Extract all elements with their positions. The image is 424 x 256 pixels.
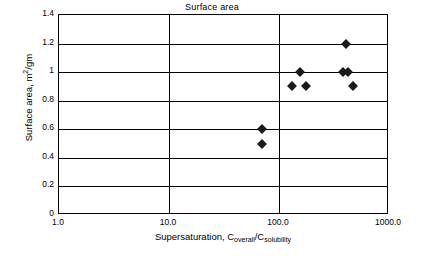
data-point [348,81,358,91]
x-axis-title: Supersaturation, Coverall/Csolubility [58,231,388,243]
data-point [287,81,297,91]
x-tick-3: 1000.0 [368,217,408,227]
x-axis-title-mid: /C [255,231,265,242]
plot-area [58,14,388,214]
data-point [341,39,351,49]
data-point [257,124,267,134]
x-tick-2: 100.0 [258,217,298,227]
x-tick-1: 10.0 [148,217,188,227]
y-axis-title-superscript: 2 [22,70,29,74]
x-axis-title-lead: Supersaturation, C [155,231,234,242]
x-axis-tick-labels: 1.0 10.0 100.0 1000.0 [58,217,388,229]
y-axis-title-tail: /gm [23,54,34,70]
chart-title: Surface area [0,2,424,12]
y-axis-title: Surface area, m2/gm [22,8,33,188]
data-point [295,67,305,77]
x-axis-title-sub-overall: overall [234,236,255,243]
data-point [343,67,353,77]
chart-container: Surface area 0 0.2 0.4 0.6 0.8 1 1.2 1.4 [0,0,424,256]
y-axis-title-lead: Surface area, m [23,74,34,142]
x-axis-title-sub-solubility: solubility [264,236,291,243]
data-point [301,81,311,91]
data-point [257,139,267,149]
x-tick-0: 1.0 [38,217,78,227]
data-points-layer [59,15,387,213]
